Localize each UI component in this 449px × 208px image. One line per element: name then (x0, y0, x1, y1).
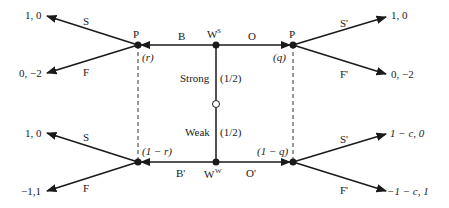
action-bl-f: F (83, 182, 89, 194)
label-w-weak: W (204, 168, 215, 180)
node-w-strong (213, 42, 220, 49)
payoff-tl-s: 1, 0 (25, 9, 42, 21)
node-p-top-left (135, 42, 142, 49)
action-tl-f: F (83, 66, 89, 78)
label-p-top-right: P (289, 28, 295, 40)
node-nature-chance (213, 101, 220, 108)
edge-bl-f (47, 162, 138, 191)
label-strong: Strong (180, 72, 210, 84)
edge-bl-s (47, 133, 138, 162)
payoff-tr-f: 0, −2 (391, 68, 414, 80)
payoff-tl-f: 0, −2 (19, 67, 42, 79)
payoff-br-s: 1 − c, 0 (390, 127, 425, 139)
action-br-f: F' (340, 184, 348, 196)
edge-tl-f (47, 45, 138, 73)
action-tr-f: F' (340, 68, 348, 80)
action-o-prime: O' (246, 167, 256, 179)
payoff-bl-s: 1, 0 (25, 127, 42, 139)
prob-weak: (1/2) (220, 126, 242, 139)
label-w-weak-sup: W (215, 167, 222, 175)
payoff-br-f: −1 − c, 1 (387, 185, 429, 197)
action-b: B (178, 30, 185, 42)
belief-q: (q) (273, 51, 286, 64)
action-o: O (248, 30, 256, 42)
label-p-top-left: P (133, 28, 139, 40)
action-bl-s: S (83, 131, 89, 143)
prob-strong: (1/2) (220, 72, 242, 85)
node-p-bottom-right (290, 159, 297, 166)
label-weak: Weak (185, 126, 210, 138)
game-tree-diagram: P W S P W W (r) (q) (1 − r) (1 − q) Stro… (0, 0, 449, 208)
belief-1-minus-r: (1 − r) (142, 145, 172, 158)
action-tr-s: S' (340, 17, 348, 29)
node-p-bottom-left (135, 159, 142, 166)
payoff-tr-s: 1, 0 (391, 9, 408, 21)
edge-tl-s (47, 16, 138, 45)
action-b-prime: B' (176, 167, 185, 179)
node-p-top-right (290, 42, 297, 49)
node-w-weak (213, 159, 220, 166)
belief-1-minus-q: (1 − q) (257, 145, 289, 158)
belief-r: (r) (142, 51, 154, 64)
payoff-bl-f: −1,1 (21, 185, 41, 197)
label-w-strong-sup: S (217, 27, 221, 35)
action-tl-s: S (83, 15, 89, 27)
action-br-s: S' (340, 133, 348, 145)
